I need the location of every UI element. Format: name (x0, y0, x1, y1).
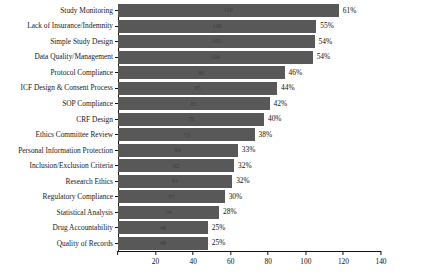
bar-value-label: 61 (172, 178, 178, 184)
category-label: Statistical Analysis (57, 209, 113, 216)
x-axis-tick: 100 (300, 251, 311, 265)
x-axis-tick: 60 (227, 251, 234, 265)
bar-row: Data Quality/Management10454% (118, 51, 380, 64)
x-tick-mark (305, 251, 306, 255)
bar-value-label: 81 (191, 101, 197, 107)
x-tick-mark (193, 251, 194, 255)
x-tick-mark (268, 251, 269, 255)
bar: 6132% (118, 175, 232, 188)
x-tick-mark (343, 251, 344, 255)
x-axis-tick: 80 (265, 251, 272, 265)
bar-row: Research Ethics6132% (118, 175, 380, 188)
x-tick-label: 80 (265, 258, 272, 265)
category-label: Protocol Compliance (50, 69, 113, 76)
x-tick-mark (155, 251, 156, 255)
x-axis-ticks: 020406080100120140 (118, 251, 381, 277)
category-label: Lack of Insurance/Indemnity (27, 22, 113, 29)
bar: 10454% (118, 51, 313, 64)
x-tick-label: 140 (375, 258, 386, 265)
category-label: Simple Study Design (50, 38, 113, 45)
bar: 10554% (118, 35, 315, 48)
bar-row: Statistical Analysis5428% (118, 206, 380, 219)
bar-row: Lack of Insurance/Indemnity10655% (118, 20, 380, 33)
bar-value-label: 118 (224, 7, 233, 13)
bar-value-label: 105 (212, 38, 221, 44)
percent-label: 44% (281, 84, 295, 91)
percent-label: 40% (268, 116, 282, 123)
bar-value-label: 48 (160, 240, 166, 246)
percent-label: 38% (259, 131, 273, 138)
category-label: SOP Compliance (62, 100, 113, 107)
percent-label: 32% (238, 162, 252, 169)
bar: 7840% (118, 113, 264, 126)
percent-label: 25% (212, 240, 226, 247)
bar: 4825% (118, 237, 208, 250)
bar: 8544% (118, 82, 277, 95)
bar-value-label: 73 (183, 132, 189, 138)
bar-row: Study Monitoring11861% (118, 4, 380, 17)
percent-label: 42% (274, 100, 288, 107)
bar-value-label: 104 (211, 54, 220, 60)
x-axis-tick: 40 (189, 251, 196, 265)
bar-value-label: 85 (194, 85, 200, 91)
x-tick-mark (381, 251, 382, 255)
bar-row: CRF Design7840% (118, 113, 380, 126)
bar-row: Ethics Committee Review7338% (118, 128, 380, 141)
bar: 10655% (118, 20, 316, 33)
x-tick-mark (230, 251, 231, 255)
bar-row: Inclusion/Exclusion Criteria6232% (118, 159, 380, 172)
bar: 11861% (118, 4, 339, 17)
percent-label: 55% (320, 22, 334, 29)
category-label: CRF Design (76, 116, 113, 123)
category-label: ICF Design & Consent Process (21, 84, 113, 91)
bar-value-label: 48 (160, 225, 166, 231)
category-label: Inclusion/Exclusion Criteria (29, 162, 113, 169)
category-label: Data Quality/Management (34, 53, 113, 60)
bar: 6433% (118, 144, 238, 157)
bar-row: ICF Design & Consent Process8544% (118, 82, 380, 95)
bar: 4825% (118, 221, 208, 234)
x-axis-tick: 0 (116, 251, 120, 265)
bar-value-label: 57 (168, 194, 174, 200)
bar-row: SOP Compliance8142% (118, 97, 380, 110)
bar: 6232% (118, 159, 234, 172)
category-label: Drug Accountability (52, 224, 113, 231)
bar-row: Protocol Compliance8946% (118, 66, 380, 79)
category-label: Research Ethics (66, 178, 113, 185)
bar-row: Drug Accountability4825% (118, 221, 380, 234)
percent-label: 32% (236, 178, 250, 185)
bar-chart: Study Monitoring11861%Lack of Insurance/… (0, 0, 421, 279)
bar: 5730% (118, 190, 225, 203)
percent-label: 28% (223, 209, 237, 216)
percent-label: 54% (319, 38, 333, 45)
x-axis-tick: 140 (375, 251, 386, 265)
bar-value-label: 54 (165, 209, 171, 215)
bar: 5428% (118, 206, 219, 219)
x-axis-tick: 20 (152, 251, 159, 265)
bar: 8142% (118, 97, 270, 110)
percent-label: 30% (229, 193, 243, 200)
category-label: Quality of Records (57, 240, 113, 247)
bar: 8946% (118, 66, 285, 79)
percent-label: 54% (317, 53, 331, 60)
bar-rows: Study Monitoring11861%Lack of Insurance/… (118, 4, 380, 250)
bar-value-label: 64 (175, 147, 181, 153)
percent-label: 25% (212, 224, 226, 231)
bar-row: Quality of Records4825% (118, 237, 380, 250)
x-tick-label: 40 (189, 258, 196, 265)
category-label: Personal Information Protection (18, 147, 113, 154)
bar-row: Regulatory Compliance5730% (118, 190, 380, 203)
bar: 7338% (118, 128, 255, 141)
bar-row: Simple Study Design10554% (118, 35, 380, 48)
bar-value-label: 89 (198, 70, 204, 76)
category-label: Regulatory Compliance (43, 193, 113, 200)
x-tick-label: 20 (152, 258, 159, 265)
x-axis-tick: 120 (338, 251, 349, 265)
bar-value-label: 78 (188, 116, 194, 122)
x-tick-label: 60 (227, 258, 234, 265)
x-tick-label: 100 (300, 258, 311, 265)
percent-label: 33% (242, 147, 256, 154)
category-label: Study Monitoring (60, 7, 113, 14)
bar-row: Personal Information Protection6433% (118, 144, 380, 157)
x-tick-label: 120 (338, 258, 349, 265)
